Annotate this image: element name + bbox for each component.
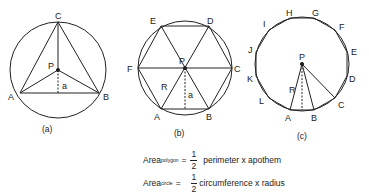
caption-b: (b) — [174, 128, 185, 138]
formula-circle-area: Areacircle = 1 2 circumference x radius — [143, 173, 285, 194]
fraction-numerator: 1 — [191, 173, 198, 184]
label-a-A: A — [8, 92, 14, 102]
label-b-a: a — [188, 90, 193, 100]
center-point-c — [300, 62, 303, 65]
label-c-F: F — [339, 22, 345, 32]
figure-c — [255, 17, 349, 111]
figure-b — [138, 21, 232, 115]
label-c-J: J — [248, 45, 253, 55]
label-c-G: G — [312, 8, 319, 18]
fraction-numerator: 1 — [190, 150, 197, 161]
label-c-H: H — [286, 8, 293, 18]
label-a-P: P — [48, 61, 54, 71]
label-b-A: A — [154, 112, 160, 122]
label-a-C: C — [55, 11, 62, 21]
label-c-R: R — [289, 85, 296, 95]
fraction-denominator: 2 — [192, 184, 197, 194]
formula-polygon-rest: perimeter x apothem — [203, 156, 281, 165]
label-a-B: B — [103, 92, 109, 102]
label-c-D: D — [349, 74, 356, 84]
label-c-K: K — [247, 74, 253, 84]
formula-circle-equals: = — [176, 179, 181, 188]
label-c-I: I — [263, 19, 266, 29]
label-c-P: P — [299, 52, 305, 62]
formula-circle-subscript: circle — [161, 181, 173, 186]
figure-a — [10, 22, 106, 118]
formula-circle-rest: circumference x radius — [199, 179, 285, 188]
label-a-a: a — [62, 81, 67, 91]
formula-polygon-subscript: polygon — [161, 158, 179, 163]
label-c-L: L — [259, 96, 264, 106]
formula-polygon-equals: = — [181, 156, 186, 165]
caption-a: (a) — [42, 124, 53, 134]
label-c-A: A — [285, 113, 291, 123]
center-point-b — [183, 66, 186, 69]
segment-pb — [302, 64, 314, 110]
label-b-D: D — [207, 16, 214, 26]
formula-circle-word: Area — [143, 179, 161, 188]
label-b-B: B — [206, 112, 212, 122]
center-point-a — [56, 68, 59, 71]
fraction-one-half: 1 2 — [191, 173, 198, 194]
label-b-P: P — [179, 56, 185, 66]
label-b-C: C — [234, 64, 241, 74]
label-b-R: R — [161, 82, 168, 92]
triangle-abc — [20, 22, 99, 93]
label-b-F: F — [127, 64, 133, 74]
formula-polygon-area: Areapolygon = 1 2 perimeter x apothem — [143, 150, 281, 171]
label-c-E: E — [351, 47, 357, 57]
fraction-one-half: 1 2 — [190, 150, 197, 171]
caption-c: (c) — [297, 131, 307, 141]
label-c-C: C — [338, 100, 345, 110]
fraction-denominator: 2 — [191, 161, 196, 171]
label-c-B: B — [311, 113, 317, 123]
label-b-E: E — [150, 16, 156, 26]
formula-polygon-word: Area — [143, 156, 161, 165]
